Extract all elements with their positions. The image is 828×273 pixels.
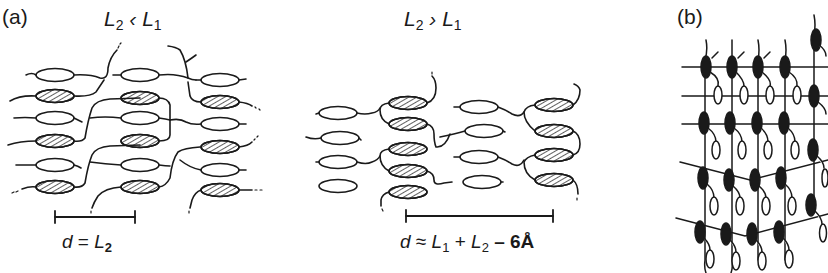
filled-core-ellipse <box>699 112 709 134</box>
operator: + <box>449 231 471 252</box>
open-core-ellipse <box>121 112 159 125</box>
filled-core-ellipse <box>701 56 711 78</box>
filled-core-ellipse <box>695 221 705 243</box>
open-core-ellipse <box>201 74 239 87</box>
panel-b-structure <box>676 15 828 273</box>
chain-dots <box>382 209 383 211</box>
open-core-ellipse <box>460 101 498 114</box>
operator: ≈ <box>411 231 432 252</box>
open-core-ellipse <box>121 69 159 82</box>
condition-l2-greater-than-l1: L2 › L1 <box>404 7 462 33</box>
open-core-ellipse <box>36 69 74 82</box>
open-core-ellipse <box>463 176 501 189</box>
condition-l2-less-than-l1: L2 ‹ L1 <box>104 7 162 33</box>
column-2 <box>90 46 200 213</box>
operator: ‹ <box>123 7 142 30</box>
filled-core-ellipse <box>725 112 735 134</box>
symbol-l: L <box>94 231 105 252</box>
filled-core-ellipse <box>811 29 821 51</box>
filled-core-ellipse <box>753 56 763 78</box>
open-core-ellipse <box>321 132 359 145</box>
symbol-l: L <box>432 231 443 252</box>
operator: = <box>73 231 95 252</box>
filled-core-ellipse <box>747 223 757 245</box>
filled-core-ellipse <box>780 56 790 78</box>
filled-core-ellipse <box>774 221 784 243</box>
symbol-l: L <box>471 231 482 252</box>
symbol-d: d <box>400 231 411 252</box>
panel-a-mid-structure <box>306 72 580 222</box>
chain-dots <box>118 43 121 48</box>
filled-core-ellipse <box>809 85 819 107</box>
symbol-l: L <box>442 7 454 30</box>
panel-a-left-structure <box>8 43 262 223</box>
filled-core-ellipse <box>752 112 762 134</box>
formula-d-approx: d ≈ L1 + L2 – 6Å <box>400 231 534 255</box>
open-core-ellipse <box>36 159 74 172</box>
filled-core-ellipse <box>727 56 737 78</box>
symbol-l: L <box>142 7 154 30</box>
panel-a-label: (a) <box>2 5 28 29</box>
formula-d-equals-l2: d = L2 <box>62 231 112 255</box>
filled-core-ellipse <box>808 139 818 161</box>
symbol-l: L <box>104 7 116 30</box>
filled-core-ellipse <box>806 194 816 216</box>
open-core-ellipse <box>465 125 503 138</box>
filled-core-ellipse <box>698 167 708 189</box>
chain-dots <box>255 107 260 110</box>
open-core-ellipse <box>121 159 159 172</box>
filled-core-ellipse <box>750 169 760 191</box>
open-core-ellipse <box>36 112 74 125</box>
subscript: 1 <box>454 17 462 33</box>
open-core-ellipse <box>201 164 239 177</box>
open-core-ellipse <box>319 107 357 120</box>
open-core-ellipse <box>319 180 357 193</box>
open-core-ellipse <box>460 151 498 164</box>
filled-core-ellipse <box>779 112 789 134</box>
subscript: 2 <box>105 240 112 255</box>
scale-bar-mid <box>406 210 553 222</box>
subscript: 1 <box>154 17 162 33</box>
subscript: 2 <box>482 240 489 255</box>
filled-core-ellipse <box>724 169 734 191</box>
scale-bar-left <box>55 211 135 223</box>
column-3 <box>170 74 262 214</box>
filled-core-ellipse <box>776 167 786 189</box>
panel-b-label: (b) <box>677 5 703 29</box>
chain-dots <box>254 136 258 140</box>
operator: › <box>423 7 442 30</box>
filled-core-ellipse <box>721 223 731 245</box>
open-core-ellipse <box>201 118 239 131</box>
chain-dots <box>12 191 18 193</box>
offset-term: – 6Å <box>489 231 534 252</box>
symbol-d: d <box>62 231 73 252</box>
symbol-l: L <box>404 7 416 30</box>
open-core-ellipse <box>319 156 357 169</box>
